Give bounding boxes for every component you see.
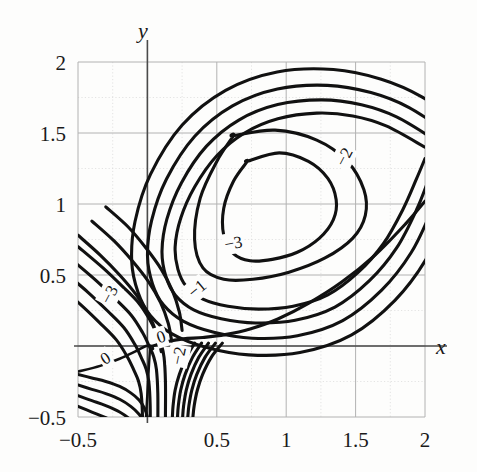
contour-plot-figure: −3−2−100−2−3 −0.50.511.5221.510.5−0.5 x … xyxy=(0,0,477,472)
y-tick-label: 1.5 xyxy=(40,122,66,146)
y-tick-label: 1 xyxy=(56,193,67,217)
x-tick-label: 2 xyxy=(420,428,431,452)
x-axis-label: x xyxy=(435,334,446,359)
x-tick-label: 1.5 xyxy=(342,428,368,452)
x-tick-label: 1 xyxy=(281,428,292,452)
x-tick-label: −0.5 xyxy=(59,428,97,452)
contour-label: −3 xyxy=(221,231,246,256)
y-axis-label: y xyxy=(136,18,148,43)
y-tick-label: 0.5 xyxy=(40,264,66,288)
svg-text:−2: −2 xyxy=(168,345,190,367)
contour-plot-svg: −3−2−100−2−3 −0.50.511.5221.510.5−0.5 x … xyxy=(0,0,477,472)
contour-label: −2 xyxy=(166,343,191,369)
y-tick-label: 2 xyxy=(56,51,67,75)
x-tick-label: 0.5 xyxy=(204,428,230,452)
svg-text:−3: −3 xyxy=(223,232,244,254)
y-tick-label: −0.5 xyxy=(28,406,66,430)
